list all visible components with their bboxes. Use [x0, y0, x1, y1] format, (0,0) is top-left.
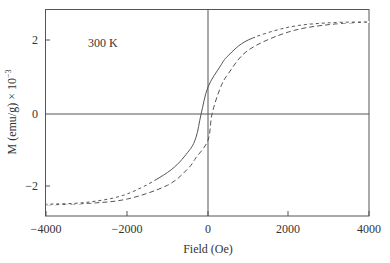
svg-text:M (emu/g) × 10−3: M (emu/g) × 10−3 [4, 70, 19, 155]
y-axis-title-exponent: −3 [4, 70, 13, 79]
x-tick-label: 2000 [276, 222, 300, 236]
y-axis-title: M (emu/g) × 10−3 [4, 70, 19, 155]
x-axis-title: Field (Oe) [183, 242, 233, 256]
x-ticks [46, 211, 369, 216]
x-tick-label: 0 [205, 222, 211, 236]
x-tick-label: 4000 [357, 222, 381, 236]
y-ticks [46, 40, 51, 186]
temperature-annotation: 300 K [88, 36, 118, 50]
y-tick-label: 2 [32, 33, 38, 47]
hysteresis-chart: −4000 −2000 0 2000 4000 2 0 −2 Field (Oe… [0, 0, 390, 263]
y-tick-label: 0 [32, 107, 38, 121]
x-tick-label: −2000 [112, 222, 143, 236]
y-axis-title-text: M (emu/g) × 10 [5, 78, 19, 154]
x-tick-label: −4000 [31, 222, 62, 236]
y-tick-label: −2 [25, 179, 38, 193]
